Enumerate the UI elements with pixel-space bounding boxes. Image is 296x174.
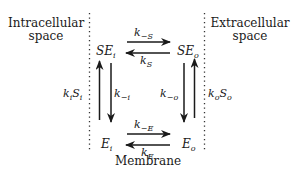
species-E-o: Eo — [182, 138, 196, 155]
rate-k-i-S-i: kiSi — [63, 88, 82, 104]
rate-k-S: kS — [140, 55, 152, 71]
species-E-i: Ei — [101, 138, 112, 155]
rate-k-o-S-o: koSo — [208, 88, 232, 104]
species-SE-i: SEi — [96, 45, 116, 62]
rate-k-minus-i: k−i — [114, 88, 130, 104]
rate-k-minus-o: k−o — [160, 88, 178, 104]
rate-k-minus-S: k−S — [134, 27, 153, 43]
rate-k-E: kE — [141, 147, 154, 163]
rate-k-minus-E: k−E — [134, 119, 153, 135]
species-SE-o: SEo — [177, 45, 199, 62]
